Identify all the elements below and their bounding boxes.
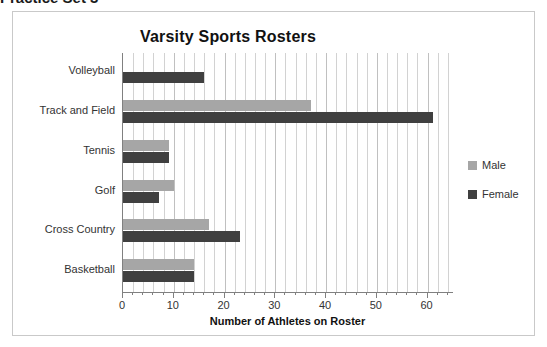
x-axis-tick (427, 292, 428, 298)
x-axis-tick (264, 292, 265, 295)
legend-label: Male (482, 159, 506, 171)
bar-female (123, 152, 169, 163)
x-axis-tick (234, 292, 235, 295)
x-axis-tick (244, 292, 245, 295)
x-axis-title: Number of Athletes on Roster (122, 315, 453, 327)
bar-male (123, 140, 169, 151)
legend-label: Female (482, 188, 519, 200)
chart-title: Varsity Sports Rosters (13, 28, 443, 46)
y-axis-tick-label: Golf (95, 184, 115, 196)
x-axis-tick (274, 292, 275, 298)
x-axis-tick (213, 292, 214, 295)
x-axis-line (122, 292, 453, 293)
x-axis-tick (315, 292, 316, 295)
bar-male (123, 259, 194, 270)
plot-area: VolleyballTrack and FieldTennisGolfCross… (122, 53, 452, 292)
x-axis-tick (437, 292, 438, 295)
x-axis-tick (203, 292, 204, 295)
x-axis-tick (325, 292, 326, 298)
y-axis-tick-label: Volleyball (69, 64, 115, 76)
x-axis-tick (284, 292, 285, 295)
category-row: Basketball (123, 252, 452, 292)
x-axis-tick (163, 292, 164, 295)
x-axis-tick (356, 292, 357, 295)
y-axis-tick-label: Cross Country (45, 223, 115, 235)
bar-male (123, 100, 311, 111)
category-row: Golf (123, 173, 452, 213)
x-axis-tick (396, 292, 397, 295)
x-axis-tick-label: 30 (268, 299, 280, 311)
x-axis-tick (305, 292, 306, 295)
cutoff-page-heading: Practice Set 3 (0, 0, 98, 6)
x-axis-tick-label: 20 (217, 299, 229, 311)
x-axis-tick-label: 60 (420, 299, 432, 311)
x-axis-tick-label: 50 (370, 299, 382, 311)
x-axis-tick-label: 10 (167, 299, 179, 311)
x-axis-tick (345, 292, 346, 295)
chart-legend: MaleFemale (468, 159, 530, 217)
x-axis-tick (152, 292, 153, 295)
legend-swatch-icon (468, 161, 477, 170)
x-axis-tick (254, 292, 255, 295)
x-axis-tick (406, 292, 407, 295)
bar-female (123, 112, 433, 123)
x-axis-tick (416, 292, 417, 295)
bar-female (123, 72, 204, 83)
category-row: Volleyball (123, 53, 452, 93)
category-row: Tennis (123, 133, 452, 173)
bar-male (123, 180, 174, 191)
x-axis-tick (183, 292, 184, 295)
category-row: Cross Country (123, 212, 452, 252)
x-axis-tick (132, 292, 133, 295)
x-axis-tick (376, 292, 377, 298)
legend-item-male: Male (468, 159, 530, 171)
x-axis-tick (122, 292, 123, 298)
bar-female (123, 192, 159, 203)
x-axis-tick-label: 40 (319, 299, 331, 311)
x-axis-tick (224, 292, 225, 298)
bar-male (123, 219, 209, 230)
x-axis-tick (386, 292, 387, 295)
y-axis-tick-label: Tennis (83, 144, 115, 156)
x-axis-tick (142, 292, 143, 295)
chart-container: Varsity Sports Rosters VolleyballTrack a… (12, 11, 535, 336)
x-axis-tick (193, 292, 194, 295)
x-axis-tick-label: 0 (119, 299, 125, 311)
category-row: Track and Field (123, 93, 452, 133)
legend-swatch-icon (468, 190, 477, 199)
bar-female (123, 271, 194, 282)
x-axis-tick (447, 292, 448, 295)
bar-female (123, 231, 240, 242)
y-axis-tick-label: Track and Field (40, 104, 115, 116)
x-axis-tick (173, 292, 174, 298)
x-axis-tick (295, 292, 296, 295)
legend-item-female: Female (468, 188, 530, 200)
x-axis-tick (335, 292, 336, 295)
y-axis-tick-label: Basketball (64, 263, 115, 275)
x-axis-tick (366, 292, 367, 295)
